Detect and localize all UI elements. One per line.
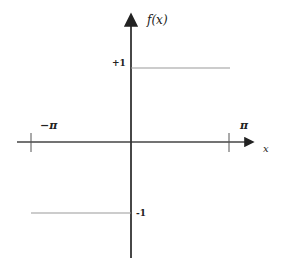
y-axis-label: f(x)	[146, 13, 168, 27]
tick-label-minus-pi: −π	[40, 119, 58, 132]
tick-label-minus-one: -1	[136, 208, 146, 218]
tick-label-plus-one: +1	[112, 58, 126, 68]
x-axis-label: x	[263, 143, 269, 154]
square-wave-diagram: f(x) x +1 -1 −π π	[0, 0, 284, 270]
tick-label-pi: π	[239, 119, 249, 132]
